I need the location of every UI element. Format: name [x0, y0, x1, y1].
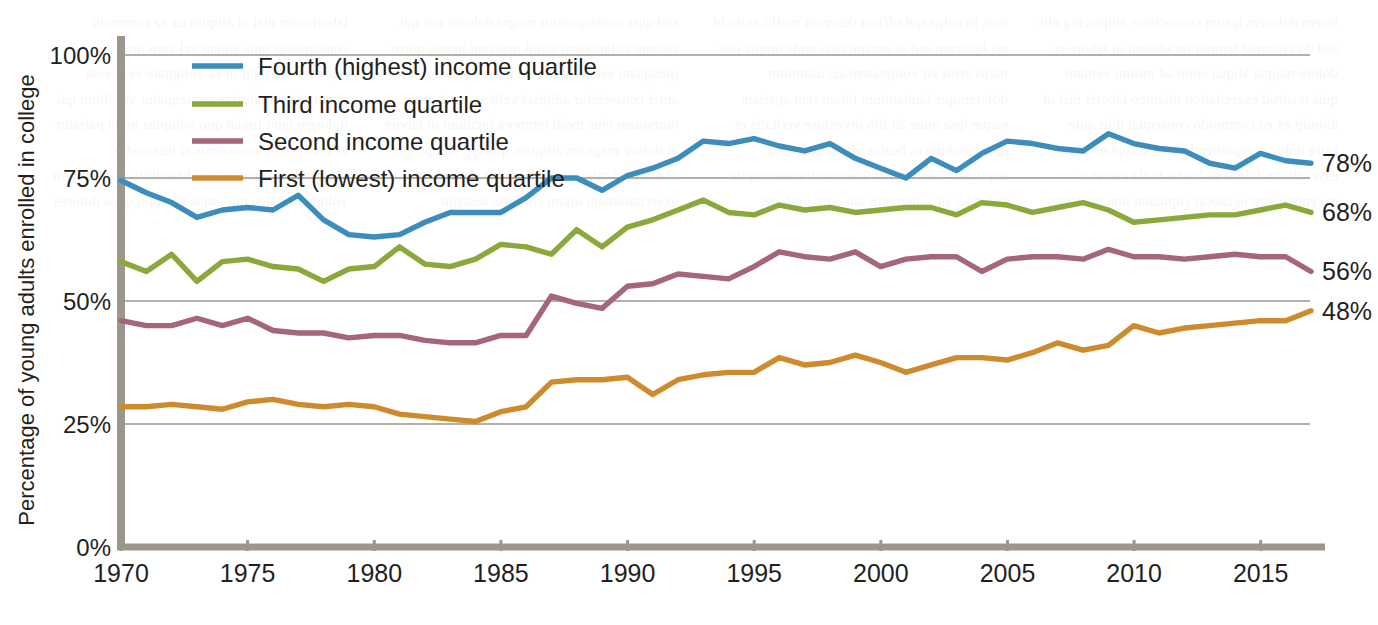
x-tick-label-1980: 1980 — [346, 559, 402, 587]
x-tick-label-2000: 2000 — [853, 559, 909, 587]
end-label-third-quartile: 68% — [1322, 198, 1372, 226]
legend: Fourth (highest) income quartile Third i… — [192, 53, 597, 192]
y-tick-label-0: 0% — [76, 534, 111, 561]
x-tick-label-1985: 1985 — [473, 559, 529, 587]
end-label-fourth-quartile: 78% — [1322, 149, 1372, 177]
y-axis-label: Percentage of young adults enrolled in c… — [14, 74, 39, 525]
x-tick-label-2010: 2010 — [1106, 559, 1162, 587]
legend-label-first-quartile: First (lowest) income quartile — [258, 165, 565, 192]
legend-label-third-quartile: Third income quartile — [258, 91, 482, 118]
series-line-first-quartile — [121, 311, 1311, 422]
y-tick-label-25: 25% — [63, 411, 111, 438]
end-value-labels: 78% 68% 56% 48% — [1322, 149, 1372, 325]
series-line-third-quartile — [121, 200, 1311, 281]
y-tick-label-75: 75% — [63, 165, 111, 192]
x-tick-label-2005: 2005 — [980, 559, 1036, 587]
line-chart-svg: 100% 75% 50% 25% 0% 1970 1975 1980 1985 … — [0, 0, 1378, 625]
legend-label-second-quartile: Second income quartile — [258, 128, 509, 155]
y-tick-label-50: 50% — [63, 288, 111, 315]
x-tick-label-1975: 1975 — [220, 559, 276, 587]
legend-label-fourth-quartile: Fourth (highest) income quartile — [258, 53, 597, 80]
end-label-second-quartile: 56% — [1322, 257, 1372, 285]
chart-container: lorem dolorem ipsum consectetur adipisci… — [0, 0, 1378, 625]
y-tick-label-100: 100% — [50, 42, 111, 69]
x-tick-label-1990: 1990 — [600, 559, 656, 587]
x-tick-label-1995: 1995 — [726, 559, 782, 587]
x-tick-label-2015: 2015 — [1233, 559, 1289, 587]
x-tick-label-1970: 1970 — [93, 559, 149, 587]
end-label-first-quartile: 48% — [1322, 297, 1372, 325]
